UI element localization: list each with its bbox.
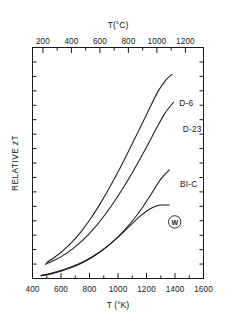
- x-top-tick-label: 1200: [176, 37, 195, 46]
- x-axis-top-tick-labels: 20040060080010001200: [36, 37, 195, 46]
- x-tick-label: 400: [26, 285, 40, 294]
- series-labels: D-6D-23BI-CW: [169, 98, 202, 228]
- x-top-tick-label: 200: [36, 37, 50, 46]
- series-label-d-6: D-6: [179, 98, 193, 108]
- x-axis-bottom-ticks: [33, 273, 204, 279]
- x-tick-label: 1400: [166, 285, 185, 294]
- x-axis-top-ticks: [43, 48, 186, 54]
- series-curve-bi-c: [41, 170, 169, 276]
- series-curve-d-23: [45, 102, 173, 264]
- marker-letter-w: W: [171, 219, 178, 226]
- series-marker-w: W: [169, 216, 181, 228]
- x-axis-bottom-title: T (°K): [107, 300, 130, 310]
- x-tick-label: 800: [83, 285, 97, 294]
- x-top-tick-label: 600: [93, 37, 107, 46]
- x-top-tick-label: 400: [64, 37, 78, 46]
- y-axis-left-ticks: [33, 62, 37, 264]
- data-series-curves: [41, 74, 174, 275]
- x-axis-top-title: T(°C): [108, 20, 129, 30]
- x-tick-label: 1000: [109, 285, 128, 294]
- series-label-d-23: D-23: [183, 124, 202, 134]
- x-top-tick-label: 800: [121, 37, 135, 46]
- x-tick-label: 1600: [194, 285, 213, 294]
- figure-container: 4006008001000120014001600 20040060080010…: [0, 0, 232, 331]
- plot-frame: [33, 48, 204, 279]
- series-curve-d-6: [47, 74, 172, 262]
- x-tick-label: 600: [54, 285, 68, 294]
- x-tick-label: 1200: [137, 285, 156, 294]
- x-top-tick-label: 1000: [148, 37, 167, 46]
- series-curve-w: [41, 205, 169, 276]
- series-label-bi-c: BI-C: [180, 179, 197, 189]
- x-axis-bottom-tick-labels: 4006008001000120014001600: [26, 285, 214, 294]
- relative-zt-vs-temperature-chart: 4006008001000120014001600 20040060080010…: [0, 0, 232, 331]
- y-axis-right-ticks: [200, 62, 204, 264]
- y-axis-title: RELATIVE zT: [10, 135, 20, 191]
